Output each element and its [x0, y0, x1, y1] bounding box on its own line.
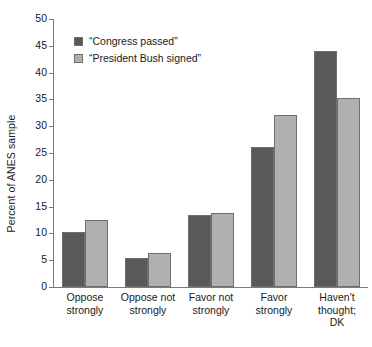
x-axis-label-line: Haven't [305, 291, 369, 304]
y-tick-label: 10 [25, 226, 47, 238]
y-tick-mark [49, 46, 53, 47]
y-tick-mark [49, 233, 53, 234]
x-axis-label-line: Oppose [53, 291, 117, 304]
x-axis-label: Oppose notstrongly [116, 291, 180, 316]
y-tick-label: 30 [25, 119, 47, 131]
x-axis-label-line: strongly [179, 304, 243, 317]
y-tick-label: 0 [25, 280, 47, 292]
bar [274, 115, 297, 287]
bar [337, 98, 360, 287]
legend-swatch-icon [74, 54, 83, 63]
x-axis-label: Opposestrongly [53, 291, 117, 316]
y-tick-mark [49, 73, 53, 74]
x-axis-label-line: DK [305, 316, 369, 329]
bar [188, 215, 211, 287]
y-tick-label: 15 [25, 200, 47, 212]
bar [125, 258, 148, 287]
bar-group [251, 19, 297, 287]
x-axis-label-line: strongly [242, 304, 306, 317]
y-tick-mark [49, 180, 53, 181]
bar [62, 232, 85, 287]
bar [85, 220, 108, 287]
y-axis-title: Percent of ANES sample [0, 0, 22, 347]
x-axis-label-line: strongly [116, 304, 180, 317]
legend-swatch-icon [74, 37, 83, 46]
y-tick-label: 5 [25, 253, 47, 265]
x-axis-label-line: strongly [53, 304, 117, 317]
y-tick-label: 35 [25, 92, 47, 104]
y-tick-mark [49, 126, 53, 127]
y-tick-label: 40 [25, 66, 47, 78]
legend: “Congress passed”“President Bush signed” [74, 34, 201, 68]
bar-group [314, 19, 360, 287]
x-axis-label: Haven'tthought;DK [305, 291, 369, 329]
x-axis-line [53, 287, 368, 288]
y-tick-mark [49, 287, 53, 288]
y-tick-label: 25 [25, 146, 47, 158]
x-axis-label-line: Oppose not [116, 291, 180, 304]
bar [148, 253, 171, 287]
bar-chart: Percent of ANES sample 50454035302520151… [0, 0, 372, 347]
y-tick-mark [49, 260, 53, 261]
y-tick-label: 50 [25, 12, 47, 24]
y-tick-label: 45 [25, 39, 47, 51]
x-axis-label-line: Favor not [179, 291, 243, 304]
legend-item: “President Bush signed” [74, 51, 201, 65]
x-axis-label: Favor notstrongly [179, 291, 243, 316]
legend-label: “Congress passed” [89, 35, 178, 47]
y-tick-mark [49, 19, 53, 20]
x-axis-label-line: Favor [242, 291, 306, 304]
bar [314, 51, 337, 287]
x-axis-labels: OpposestronglyOppose notstronglyFavor no… [54, 291, 368, 347]
legend-item: “Congress passed” [74, 34, 201, 48]
bar [251, 147, 274, 287]
x-axis-label-line: thought; [305, 304, 369, 317]
y-tick-label: 20 [25, 173, 47, 185]
y-tick-mark [49, 153, 53, 154]
x-axis-label: Favorstrongly [242, 291, 306, 316]
legend-label: “President Bush signed” [89, 52, 201, 64]
bar [211, 213, 234, 287]
y-tick-mark [49, 207, 53, 208]
y-tick-mark [49, 99, 53, 100]
